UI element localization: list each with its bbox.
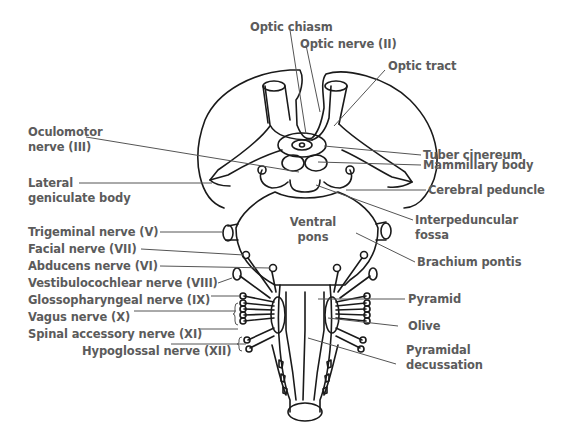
label-optic-chiasm: Optic chiasm: [250, 20, 333, 35]
right-optic-nerve: [312, 86, 331, 140]
label-interpeduncular-fossa-line2: fossa: [415, 228, 449, 243]
label-ventral-pons-line1: Ventral: [283, 215, 343, 230]
mammillary-body-left: [282, 155, 304, 171]
label-pyramidal-decussation-line2: decussation: [406, 358, 483, 373]
label-mammillary-body: Mammillary body: [423, 158, 533, 173]
label-abducens-nerve: Abducens nerve (VI): [28, 259, 158, 274]
pyramid-right: [314, 292, 324, 400]
tuber-cinereum: [278, 133, 326, 157]
label-olive: Olive: [408, 319, 440, 334]
left-optic-nerve-end: [263, 81, 285, 91]
right-nerve-rootlets: [334, 252, 378, 353]
label-brachium-pontis: Brachium pontis: [417, 255, 521, 270]
left-nerve-rootlets: [233, 252, 277, 353]
brainstem-diagram: Optic chiasm Optic nerve (II) Optic trac…: [0, 0, 577, 435]
label-pyramid: Pyramid: [408, 292, 461, 307]
spinal-cord-cut: [288, 403, 322, 421]
label-oculomotor-nerve-line1: Oculomotor: [28, 125, 103, 140]
label-vagus-nerve: Vagus nerve (X): [28, 310, 130, 325]
label-lateral-geniculate-line1: Lateral: [28, 176, 73, 191]
label-ventral-pons-line2: pons: [283, 230, 343, 245]
label-hypoglossal-nerve: Hypoglossal nerve (XII): [82, 344, 231, 359]
label-optic-nerve: Optic nerve (II): [300, 37, 397, 52]
pyramid-left: [286, 292, 296, 400]
label-glossopharyngeal-nerve: Glossopharyngeal nerve (IX): [28, 293, 210, 308]
label-cerebral-peduncle: Cerebral peduncle: [428, 183, 545, 198]
leader-lines: [79, 30, 426, 364]
label-trigeminal-nerve: Trigeminal nerve (V): [28, 225, 158, 240]
label-spinal-accessory-nerve: Spinal accessory nerve (XI): [28, 327, 202, 342]
label-lateral-geniculate-line2: geniculate body: [28, 191, 131, 206]
label-optic-tract: Optic tract: [388, 59, 456, 74]
label-oculomotor-nerve-line2: nerve (III): [28, 140, 91, 155]
interpeduncular-fossa: [290, 180, 320, 192]
right-optic-tract: [339, 124, 412, 187]
right-optic-nerve-end: [325, 81, 347, 91]
label-pyramidal-decussation-line1: Pyramidal: [406, 343, 471, 358]
label-facial-nerve: Facial nerve (VII): [28, 242, 137, 257]
label-interpeduncular-fossa-line1: Interpeduncular: [415, 213, 518, 228]
mammillary-body-right: [305, 155, 327, 171]
label-vestibulocochlear-nerve: Vestibulocochlear nerve (VIII): [28, 276, 218, 291]
